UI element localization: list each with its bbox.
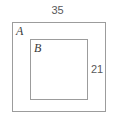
geometry-diagram: 35 A B 21 bbox=[0, 0, 115, 120]
dimension-label-height: 21 bbox=[91, 64, 103, 75]
shape-label-a: A bbox=[16, 25, 23, 37]
shape-label-b: B bbox=[34, 42, 41, 54]
dimension-label-width: 35 bbox=[0, 5, 115, 16]
